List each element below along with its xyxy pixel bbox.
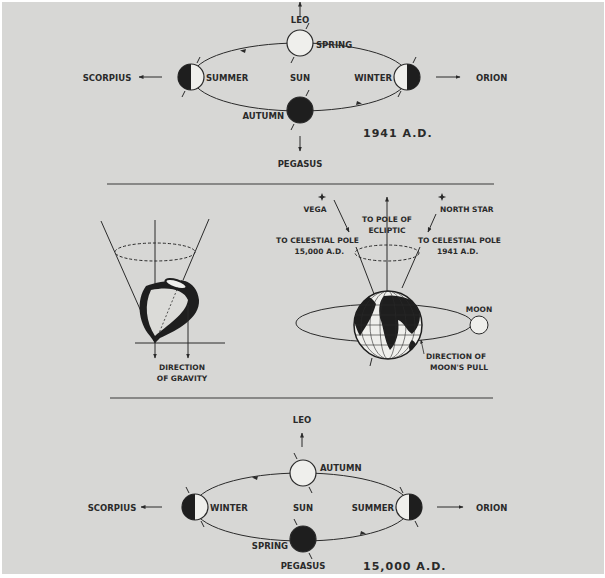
moon: [470, 316, 488, 334]
label-scorpius: SCORPIUS: [88, 503, 137, 513]
label-season-left: SUMMER: [206, 73, 249, 83]
label-season-bottom: SPRING: [252, 541, 288, 551]
background-panel: [2, 2, 604, 574]
label-sun: SUN: [290, 73, 310, 83]
year-label-1941: 1941 A.D.: [363, 127, 433, 140]
precession-diagram: LEO SCORPIUS ORION PEGASUS SPRING SUMMER…: [0, 0, 605, 578]
label-leo: LEO: [291, 15, 309, 25]
label-celestial-15000-2: 15,000 A.D.: [295, 247, 345, 256]
label-sun: SUN: [293, 503, 313, 513]
label-orion: ORION: [476, 73, 507, 83]
label-celestial-1941-1: TO CELESTIAL POLE: [418, 236, 501, 245]
label-pegasus: PEGASUS: [278, 159, 323, 169]
label-direction: DIRECTION: [159, 363, 205, 372]
label-north-star: NORTH STAR: [440, 205, 494, 214]
label-season-top: SPRING: [316, 40, 352, 50]
label-moon-pull-2: MOON'S PULL: [430, 363, 488, 372]
label-celestial-15000-1: TO CELESTIAL POLE: [276, 236, 359, 245]
label-season-top: AUTUMN: [320, 463, 362, 473]
label-of-gravity: OF GRAVITY: [157, 374, 208, 383]
label-leo: LEO: [293, 415, 311, 425]
label-season-right: WINTER: [354, 73, 392, 83]
label-season-left: WINTER: [210, 503, 248, 513]
label-scorpius: SCORPIUS: [83, 73, 132, 83]
label-orion: ORION: [476, 503, 507, 513]
label-season-right: SUMMER: [352, 503, 395, 513]
label-moon: MOON: [466, 305, 493, 314]
label-vega: VEGA: [304, 205, 327, 214]
label-season-bottom: AUTUMN: [243, 111, 285, 121]
label-pegasus: PEGASUS: [281, 561, 326, 571]
label-celestial-1941-2: 1941 A.D.: [437, 247, 479, 256]
year-label-15000: 15,000 A.D.: [363, 560, 446, 573]
label-moon-pull-1: DIRECTION OF: [426, 352, 486, 361]
